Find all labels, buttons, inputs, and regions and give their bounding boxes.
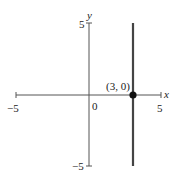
origin-label: 0 — [92, 100, 98, 112]
y-axis-label: y — [86, 9, 92, 21]
point-3-0 — [129, 91, 136, 98]
point-label: (3, 0) — [106, 80, 130, 93]
x-min-label: −5 — [7, 102, 19, 114]
x-axis-label: x — [163, 88, 169, 100]
y-max-label: 5 — [79, 18, 85, 30]
x-max-label: 5 — [157, 102, 163, 114]
graph: −5 5 x 5 y −5 0 (3, 0) — [0, 0, 178, 181]
y-min-label: −5 — [72, 160, 84, 172]
